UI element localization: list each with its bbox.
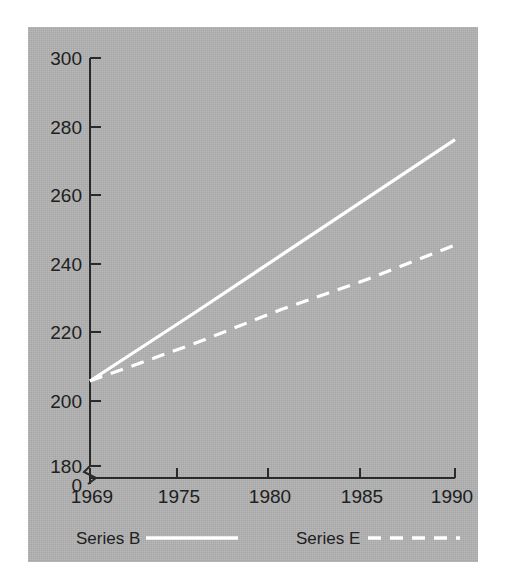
- y-tick-label-260: 260: [50, 185, 82, 206]
- chart-legend: Series B Series E: [76, 529, 460, 548]
- series-line-series-b: [90, 140, 455, 381]
- y-tick-label-220: 220: [50, 322, 82, 343]
- y-tick-labels: 300 280 260 240 220 200 180 0: [50, 48, 82, 496]
- y-tick-label-300: 300: [50, 48, 82, 69]
- y-tick-label-180: 180: [50, 456, 82, 477]
- y-tick-label-280: 280: [50, 117, 82, 138]
- y-tick-label-240: 240: [50, 254, 82, 275]
- series-group: [90, 140, 455, 381]
- y-tick-label-200: 200: [50, 391, 82, 412]
- series-line-series-e: [90, 245, 455, 381]
- x-tick-label-1985: 1985: [341, 486, 383, 507]
- x-tick-label-1969: 1969: [71, 486, 113, 507]
- x-tick-label-1990: 1990: [431, 486, 473, 507]
- x-tick-label-1980: 1980: [249, 486, 291, 507]
- y-tick-marks: [90, 58, 101, 466]
- x-tick-labels: 1969 1975 1980 1985 1990: [71, 486, 473, 507]
- chart-figure: 300 280 260 240 220 200 180 0 1969 1975 …: [0, 0, 509, 585]
- legend-label-series-e: Series E: [296, 529, 360, 548]
- legend-label-series-b: Series B: [76, 529, 140, 548]
- x-tick-marks: [90, 468, 455, 478]
- x-tick-label-1975: 1975: [158, 486, 200, 507]
- axes-group: [84, 58, 455, 484]
- chart-svg: 300 280 260 240 220 200 180 0 1969 1975 …: [0, 0, 509, 585]
